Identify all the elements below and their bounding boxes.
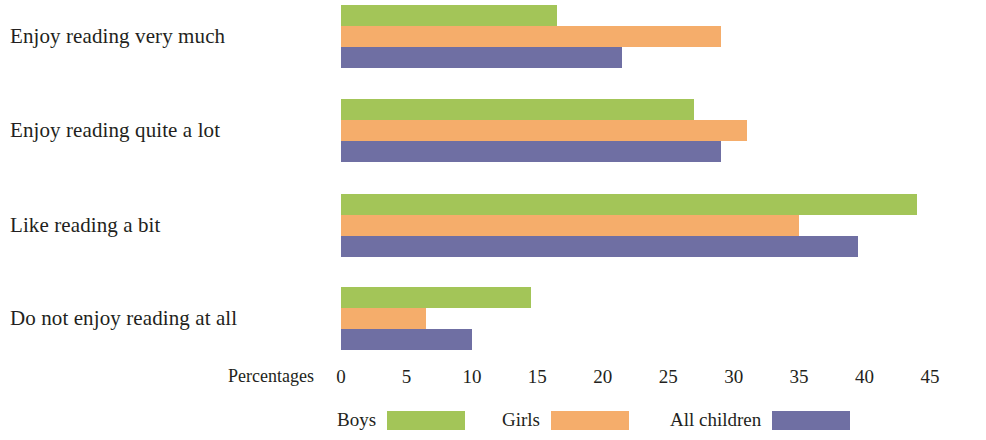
bar-boys [341,287,531,308]
x-axis-tick: 10 [442,366,502,388]
legend-item-girls[interactable]: Girls [502,409,629,431]
x-axis: Percentages 051015202530354045 [0,366,986,394]
legend-label: Boys [337,409,376,431]
legend-label: Girls [502,409,540,431]
bar-boys [341,194,917,215]
legend: BoysGirlsAll children [0,409,986,435]
legend-item-all[interactable]: All children [670,409,850,431]
x-axis-tick: 40 [835,366,895,388]
legend-label: All children [670,409,761,431]
x-axis-tick: 45 [900,366,960,388]
x-axis-tick: 15 [507,366,567,388]
legend-swatch-girls [551,411,629,430]
bar-boys [341,5,557,26]
x-axis-tick: 20 [573,366,633,388]
plot-area [0,0,986,360]
reading-enjoyment-bar-chart: Enjoy reading very much Enjoy reading qu… [0,0,986,440]
legend-swatch-all [772,411,850,430]
x-axis-tick: 35 [769,366,829,388]
legend-item-boys[interactable]: Boys [337,409,465,431]
bar-all [341,141,721,162]
bar-boys [341,99,694,120]
bar-all [341,329,472,350]
x-axis-tick: 30 [704,366,764,388]
x-axis-tick: 0 [311,366,371,388]
x-axis-tick: 5 [376,366,436,388]
bar-all [341,236,858,257]
bar-girls [341,26,721,47]
legend-swatch-boys [387,411,465,430]
x-axis-tick: 25 [638,366,698,388]
bar-all [341,47,622,68]
bar-girls [341,308,426,329]
bar-girls [341,120,747,141]
bar-girls [341,215,799,236]
x-axis-title: Percentages [228,366,314,387]
